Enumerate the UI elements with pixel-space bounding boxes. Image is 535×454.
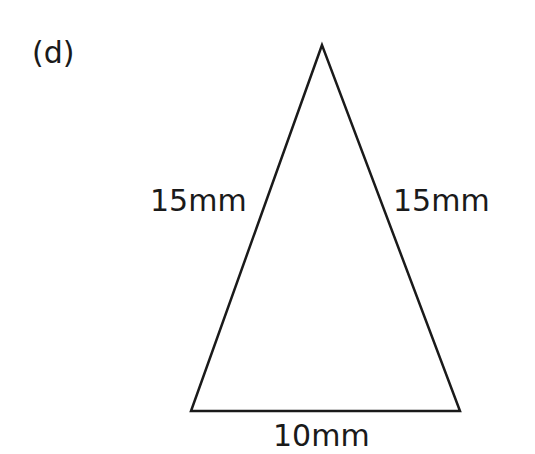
- isosceles-triangle: [0, 0, 535, 454]
- left-side-label: 15mm: [150, 186, 247, 216]
- base-label: 10mm: [273, 421, 370, 451]
- triangle-shape: [191, 45, 460, 411]
- right-side-label: 15mm: [393, 186, 490, 216]
